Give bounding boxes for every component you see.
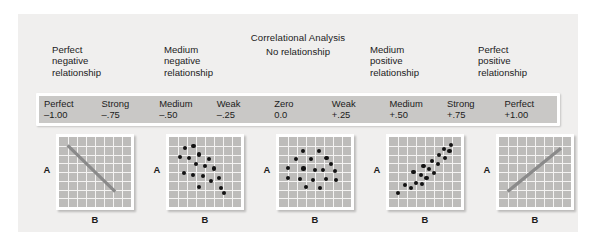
scale-cell-value: –.75 [102, 109, 120, 120]
x-axis-label: B [386, 214, 464, 225]
gridline-horizontal [389, 190, 461, 191]
scatter-point [409, 186, 413, 190]
trend-line [59, 137, 131, 207]
scatter-point [396, 191, 400, 195]
scale-cell-value: –.25 [217, 109, 235, 120]
gridline-vertical [223, 137, 224, 207]
scatter-point [313, 168, 317, 172]
scale-cell-label: Weak [217, 98, 241, 109]
x-axis-label: B [166, 214, 244, 225]
scatter-point [191, 173, 195, 177]
plot-grid [389, 137, 461, 207]
scatter-point [301, 149, 305, 153]
x-axis-label: B [276, 214, 354, 225]
plot-grid [169, 137, 241, 207]
scale-cell-5: Weak+.25 [327, 96, 385, 123]
gridline-horizontal [389, 172, 461, 173]
gridline-vertical [214, 137, 215, 207]
caption-line-1: Perfect [52, 44, 101, 55]
scatter-point [436, 162, 440, 166]
scatter-point [207, 157, 211, 161]
caption-line-1: Medium [164, 44, 213, 55]
y-axis-label: A [480, 164, 494, 175]
scatter-point [286, 176, 290, 180]
caption-medium-negative: Medium negative relationship [164, 44, 213, 78]
scatter-plot-row: ABABABABAB [18, 132, 578, 232]
caption-line-3: relationship [52, 67, 101, 78]
plot-group-no-relationship: AB [260, 132, 364, 232]
caption-line-3: relationship [164, 67, 213, 78]
plot-group-medium-positive: AB [370, 132, 474, 232]
caption-line-3: relationship [478, 67, 527, 78]
scatter-point [301, 166, 305, 170]
scale-cell-2: Medium–.50 [154, 96, 212, 123]
gridline-horizontal [279, 190, 351, 191]
plot-frame-medium-negative [166, 134, 244, 210]
plot-frame-perfect-positive [496, 134, 574, 210]
scatter-point [298, 177, 302, 181]
caption-perfect-negative: Perfect negative relationship [52, 44, 101, 78]
scatter-point [443, 156, 447, 160]
scatter-point [437, 153, 441, 157]
scatter-point [442, 147, 446, 151]
scale-cell-label: Weak [332, 98, 356, 109]
gridline-horizontal [169, 198, 241, 199]
scatter-point [194, 162, 198, 166]
x-axis-label: B [56, 214, 134, 225]
scatter-point [324, 177, 328, 181]
gridline-horizontal [169, 172, 241, 173]
scatter-point [182, 171, 186, 175]
scatter-point [212, 166, 216, 170]
figure-panel: Correlational Analysis No relationship P… [18, 14, 578, 232]
gridline-horizontal [389, 181, 461, 182]
scale-cell-label: Strong [102, 98, 130, 109]
correlational-analysis-figure: Correlational Analysis No relationship P… [0, 0, 596, 243]
scale-cell-value: –1.00 [44, 109, 67, 120]
y-axis-label: A [150, 164, 164, 175]
scale-cell-value: –.50 [159, 109, 177, 120]
scatter-point [286, 166, 290, 170]
gridline-vertical [232, 137, 233, 207]
scale-cell-label: Perfect [505, 98, 535, 109]
y-axis-label: A [260, 164, 274, 175]
scatter-point [217, 176, 221, 180]
scale-cell-label: Strong [447, 98, 475, 109]
scale-cell-label: Medium [159, 98, 192, 109]
scale-cell-value: 0.0 [274, 109, 287, 120]
scale-cell-1: Strong–.75 [97, 96, 155, 123]
caption-line-2: negative [164, 55, 213, 66]
scatter-point [324, 156, 328, 160]
plot-group-perfect-negative: AB [40, 132, 144, 232]
scale-cell-3: Weak–.25 [212, 96, 270, 123]
plot-grid [59, 137, 131, 207]
scatter-point [414, 181, 418, 185]
scatter-point [197, 152, 201, 156]
scale-cell-value: +.50 [389, 109, 408, 120]
caption-row: Perfect negative relationship Medium neg… [18, 44, 578, 90]
scale-cell-value: +1.00 [505, 109, 529, 120]
scale-cell-7: Strong+.75 [442, 96, 500, 123]
scatter-point [311, 178, 315, 182]
scatter-point [427, 167, 431, 171]
caption-line-1: Medium [370, 44, 419, 55]
scale-cell-4: Zero0.0 [269, 96, 327, 123]
gridline-horizontal [389, 198, 461, 199]
caption-line-2: positive [478, 55, 527, 66]
plot-grid [499, 137, 571, 207]
caption-medium-positive: Medium positive relationship [370, 44, 419, 78]
scatter-point [333, 169, 337, 173]
scale-cell-6: Medium+.50 [384, 96, 442, 123]
scale-cell-value: +.75 [447, 109, 466, 120]
caption-line-1: Perfect [478, 44, 527, 55]
scatter-point [321, 168, 325, 172]
scatter-point [309, 157, 313, 161]
scale-cell-0: Perfect–1.00 [39, 96, 97, 123]
scatter-point [447, 149, 451, 153]
gridline-vertical [324, 137, 325, 207]
gridline-horizontal [279, 172, 351, 173]
gridline-horizontal [169, 181, 241, 182]
plot-grid [279, 137, 351, 207]
caption-line-2: negative [52, 55, 101, 66]
caption-perfect-positive: Perfect positive relationship [478, 44, 527, 78]
scatter-point [424, 176, 428, 180]
